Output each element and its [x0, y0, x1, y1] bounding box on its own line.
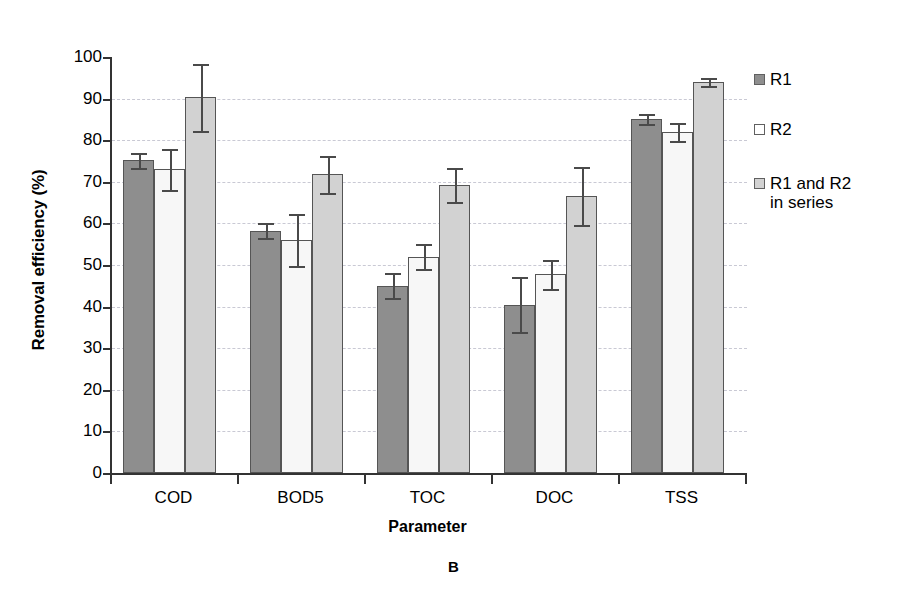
- error-bar: [139, 153, 141, 168]
- x-tick-label: DOC: [491, 487, 618, 508]
- error-bar-cap: [385, 273, 401, 275]
- x-tick-mark: [237, 473, 239, 484]
- x-axis-tick-labels: CODBOD5TOCDOCTSS: [110, 487, 745, 511]
- y-tick-mark: [103, 223, 112, 225]
- y-axis-tick-labels: 0102030405060708090100: [52, 46, 102, 486]
- bar: [377, 286, 408, 473]
- legend-label: R1: [770, 70, 792, 89]
- bar: [123, 160, 154, 473]
- bar: [154, 169, 185, 473]
- bar-series-container: [112, 57, 747, 473]
- error-bar-cap: [701, 78, 717, 80]
- y-tick-mark: [103, 390, 112, 392]
- error-bar-cap: [447, 168, 463, 170]
- error-bar-cap: [131, 153, 147, 155]
- figure-panel-b: Removal efficiency (%) 01020304050607080…: [0, 0, 907, 601]
- error-bar-cap: [258, 238, 274, 240]
- error-bar: [424, 244, 426, 269]
- y-tick-label: 100: [52, 48, 102, 65]
- x-tick-label: BOD5: [237, 487, 364, 508]
- x-tick-label: TOC: [364, 487, 491, 508]
- error-bar-cap: [574, 167, 590, 169]
- error-bar: [455, 168, 457, 201]
- bar: [439, 185, 470, 473]
- error-bar-cap: [416, 269, 432, 271]
- y-tick-label: 40: [52, 298, 102, 315]
- error-bar: [551, 260, 553, 289]
- y-tick-mark: [103, 99, 112, 101]
- bar: [693, 82, 724, 473]
- error-bar: [266, 223, 268, 238]
- error-bar-cap: [162, 149, 178, 151]
- bar: [408, 257, 439, 473]
- y-tick-label: 50: [52, 256, 102, 273]
- x-tick-mark: [745, 473, 747, 484]
- y-tick-label: 90: [52, 90, 102, 107]
- error-bar-cap: [258, 223, 274, 225]
- error-bar-cap: [320, 156, 336, 158]
- error-bar-cap: [416, 244, 432, 246]
- error-bar-cap: [639, 124, 655, 126]
- error-bar-cap: [701, 86, 717, 88]
- y-tick-mark: [103, 182, 112, 184]
- error-bar-cap: [385, 298, 401, 300]
- error-bar-cap: [320, 193, 336, 195]
- error-bar: [678, 123, 680, 141]
- bar: [631, 119, 662, 473]
- y-tick-label: 20: [52, 381, 102, 398]
- legend-entry: R1 and R2 in series: [754, 174, 851, 212]
- x-tick-mark: [364, 473, 366, 484]
- error-bar-cap: [289, 214, 305, 216]
- y-tick-label: 0: [52, 464, 102, 481]
- y-tick-label: 80: [52, 131, 102, 148]
- bar: [312, 174, 343, 473]
- error-bar-cap: [670, 123, 686, 125]
- plot-area: [110, 57, 747, 475]
- x-axis-title: Parameter: [110, 518, 745, 536]
- error-bar: [582, 167, 584, 225]
- y-tick-mark: [103, 140, 112, 142]
- bar: [662, 132, 693, 473]
- error-bar-cap: [639, 114, 655, 116]
- x-tick-mark: [491, 473, 493, 484]
- error-bar-cap: [193, 131, 209, 133]
- y-tick-mark: [103, 348, 112, 350]
- error-bar: [170, 149, 172, 191]
- y-axis-title: Removal efficiency (%): [22, 40, 56, 480]
- error-bar-cap: [193, 64, 209, 66]
- legend-label: R1 and R2 in series: [770, 174, 851, 212]
- x-tick-label: TSS: [618, 487, 745, 508]
- error-bar: [520, 277, 522, 331]
- error-bar-cap: [162, 190, 178, 192]
- error-bar-cap: [543, 260, 559, 262]
- error-bar: [201, 64, 203, 131]
- y-tick-mark: [103, 431, 112, 433]
- x-tick-mark: [110, 473, 112, 484]
- x-tick-label: COD: [110, 487, 237, 508]
- bar: [250, 231, 281, 473]
- error-bar: [393, 273, 395, 298]
- legend-swatch-icon: [754, 178, 765, 189]
- bar: [535, 274, 566, 473]
- y-tick-mark: [103, 265, 112, 267]
- x-tick-mark: [618, 473, 620, 484]
- x-axis-tick-marks: [110, 473, 747, 485]
- legend-entry: R2: [754, 120, 792, 139]
- y-tick-mark: [103, 57, 112, 59]
- legend-swatch-icon: [754, 74, 765, 85]
- y-tick-label: 30: [52, 339, 102, 356]
- y-tick-label: 60: [52, 214, 102, 231]
- error-bar-cap: [670, 141, 686, 143]
- error-bar-cap: [131, 168, 147, 170]
- error-bar-cap: [447, 202, 463, 204]
- error-bar: [328, 156, 330, 193]
- error-bar-cap: [289, 266, 305, 268]
- legend-swatch-icon: [754, 124, 765, 135]
- error-bar-cap: [512, 332, 528, 334]
- bar: [185, 97, 216, 473]
- y-tick-label: 70: [52, 173, 102, 190]
- y-tick-mark: [103, 307, 112, 309]
- bar: [281, 240, 312, 473]
- error-bar-cap: [574, 225, 590, 227]
- panel-caption: B: [0, 558, 907, 575]
